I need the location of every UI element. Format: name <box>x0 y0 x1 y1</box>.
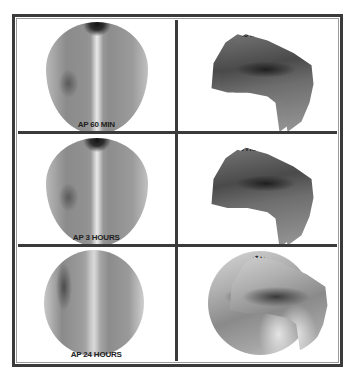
panel-label: AP 3 HOURS <box>18 233 175 242</box>
panel-ap-3-hours: AP 3 HOURS <box>18 134 178 248</box>
panel-lat-d-24-hours: LAT D 24 HOURS <box>178 247 338 361</box>
panel-label: AP 60 MIN <box>18 120 175 129</box>
panel-lat-d-60-min: LAT D 60 MIN <box>178 20 338 134</box>
scan-image-ap-60-min <box>46 22 148 134</box>
panel-ap-60-min: AP 60 MIN <box>18 20 178 134</box>
panel-lat-d-3-hours: LAT D 3 HOURS <box>178 134 338 248</box>
scan-grid: AP 60 MIN LAT D 60 MIN AP 3 HOURS LAT D … <box>18 20 337 361</box>
scan-image-ap-24-hours <box>44 250 144 356</box>
scan-image-ap-3-hours <box>46 138 148 246</box>
panel-ap-24-hours: AP 24 HOURS <box>18 247 178 361</box>
panel-label: AP 24 HOURS <box>18 350 175 359</box>
scintigraphy-figure-frame: AP 60 MIN LAT D 60 MIN AP 3 HOURS LAT D … <box>12 14 343 367</box>
